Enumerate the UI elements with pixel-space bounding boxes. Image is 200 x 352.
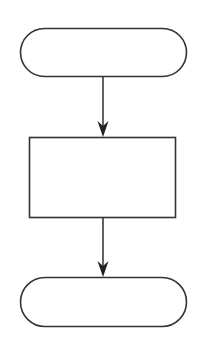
flowchart-canvas	[0, 0, 200, 352]
end-terminator	[21, 278, 187, 327]
process-box	[30, 138, 176, 218]
arrow-process-to-end	[98, 218, 109, 277]
start-terminator	[21, 29, 187, 77]
arrow-start-to-process	[98, 77, 109, 137]
flowchart-diagram	[0, 0, 200, 352]
